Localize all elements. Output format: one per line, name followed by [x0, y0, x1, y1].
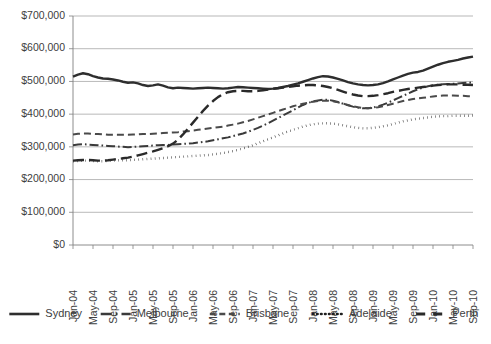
- x-tick-label-6: Jan-06: [187, 290, 199, 322]
- y-tick-label-3: $300,000: [21, 140, 65, 152]
- legend-label-sydney[interactable]: Sydney: [45, 307, 82, 319]
- y-tick-label-7: $700,000: [21, 9, 65, 21]
- grid-layer: [73, 16, 473, 212]
- x-tick-label-2: Sep-04: [107, 290, 119, 324]
- legend-label-melbourne[interactable]: Melbourne: [137, 307, 189, 319]
- axis-layer: [69, 16, 473, 249]
- chart-canvas: $0$100,000$200,000$300,000$400,000$500,0…: [0, 0, 491, 344]
- legend-label-perth[interactable]: Perth: [452, 307, 478, 319]
- series-line-adelaide: [73, 115, 473, 161]
- y-tick-label-2: $200,000: [21, 172, 65, 184]
- series-layer: [73, 57, 473, 162]
- y-tick-label-1: $100,000: [21, 205, 65, 217]
- series-line-melbourne: [73, 82, 473, 147]
- series-line-perth: [73, 84, 473, 160]
- line-chart: $0$100,000$200,000$300,000$400,000$500,0…: [0, 0, 491, 344]
- x-tick-label-17: Sep-09: [407, 290, 419, 324]
- x-tick-label-8: Sep-06: [227, 290, 239, 324]
- x-tick-label-7: May-06: [207, 290, 219, 325]
- series-line-sydney: [73, 57, 473, 89]
- x-tick-label-1: May-04: [87, 290, 99, 325]
- ytick-label-layer: $0$100,000$200,000$300,000$400,000$500,0…: [21, 9, 65, 250]
- y-tick-label-6: $600,000: [21, 41, 65, 53]
- series-line-brisbane: [73, 96, 473, 135]
- x-tick-label-12: Jan-08: [307, 290, 319, 322]
- y-tick-label-0: $0: [53, 238, 65, 250]
- x-tick-label-13: May-08: [327, 290, 339, 325]
- legend-label-brisbane[interactable]: Brisbane: [246, 307, 289, 319]
- x-tick-label-18: Jan-10: [427, 290, 439, 322]
- y-tick-label-4: $400,000: [21, 107, 65, 119]
- legend-label-adelaide[interactable]: Adelaide: [349, 307, 392, 319]
- y-tick-label-5: $500,000: [21, 74, 65, 86]
